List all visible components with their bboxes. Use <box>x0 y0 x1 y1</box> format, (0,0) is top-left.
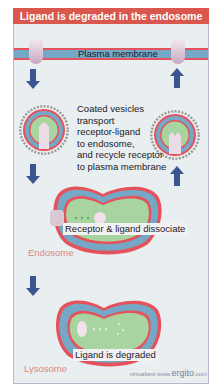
endosome-label: Endosome <box>28 247 73 258</box>
arrow-down-icon <box>26 164 40 184</box>
credit-suffix: .com <box>194 371 207 377</box>
diagram-title: Ligand is degraded in the endosome <box>13 8 209 24</box>
arrow-up-icon <box>170 166 184 186</box>
plasma-membrane-label: Plasma membrane <box>78 48 158 60</box>
arrow-up-icon <box>170 68 184 88</box>
receptor-ligand-dissociate-label: Receptor & ligand dissociate <box>63 223 187 235</box>
coated-vesicle-left-icon <box>19 105 69 155</box>
lysosome-label: Lysosome <box>24 363 67 374</box>
receptor-ligand-icon <box>29 40 43 64</box>
ligand-degraded-label: Ligand is degraded <box>73 349 158 361</box>
arrow-down-icon <box>26 276 40 296</box>
arrow-down-icon <box>26 69 40 89</box>
credit-text: virtualtext www.ergito.com <box>130 368 207 378</box>
coated-vesicles-description: Coated vesicles transport receptor-ligan… <box>77 103 166 172</box>
credit-brand: ergito <box>171 368 194 378</box>
receptor-icon <box>171 40 185 64</box>
credit-prefix: virtualtext www. <box>130 371 172 377</box>
